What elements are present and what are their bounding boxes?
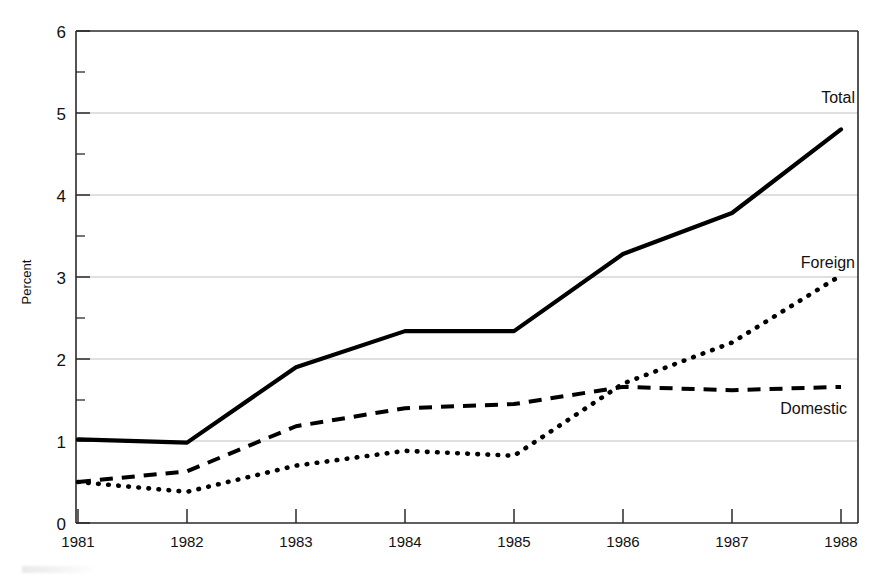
y-tick-label-6: 6 <box>57 23 66 42</box>
y-tick-label-1: 1 <box>57 433 66 452</box>
x-tick-label-1986: 1986 <box>606 533 639 550</box>
chart-background <box>0 0 882 577</box>
x-tick-label-1984: 1984 <box>388 533 421 550</box>
x-tick-label-1981: 1981 <box>61 533 94 550</box>
x-tick-label-1982: 1982 <box>170 533 203 550</box>
series-label-domestic: Domestic <box>780 400 847 417</box>
y-tick-label-0: 0 <box>57 515 66 534</box>
y-tick-label-3: 3 <box>57 269 66 288</box>
y-tick-label-5: 5 <box>57 105 66 124</box>
chart-figure: 6 5 4 3 2 1 0 Percent 1981 1982 1983 198… <box>0 0 882 577</box>
series-label-total: Total <box>821 89 855 106</box>
line-chart: 6 5 4 3 2 1 0 Percent 1981 1982 1983 198… <box>0 0 882 577</box>
x-tick-label-1988: 1988 <box>824 533 857 550</box>
x-tick-label-1987: 1987 <box>715 533 748 550</box>
y-tick-label-4: 4 <box>57 187 66 206</box>
series-label-foreign: Foreign <box>801 254 855 271</box>
y-axis-title: Percent <box>19 259 34 304</box>
scan-artifact <box>22 566 162 573</box>
x-tick-label-1985: 1985 <box>497 533 530 550</box>
y-tick-label-2: 2 <box>57 351 66 370</box>
x-tick-label-1983: 1983 <box>279 533 312 550</box>
